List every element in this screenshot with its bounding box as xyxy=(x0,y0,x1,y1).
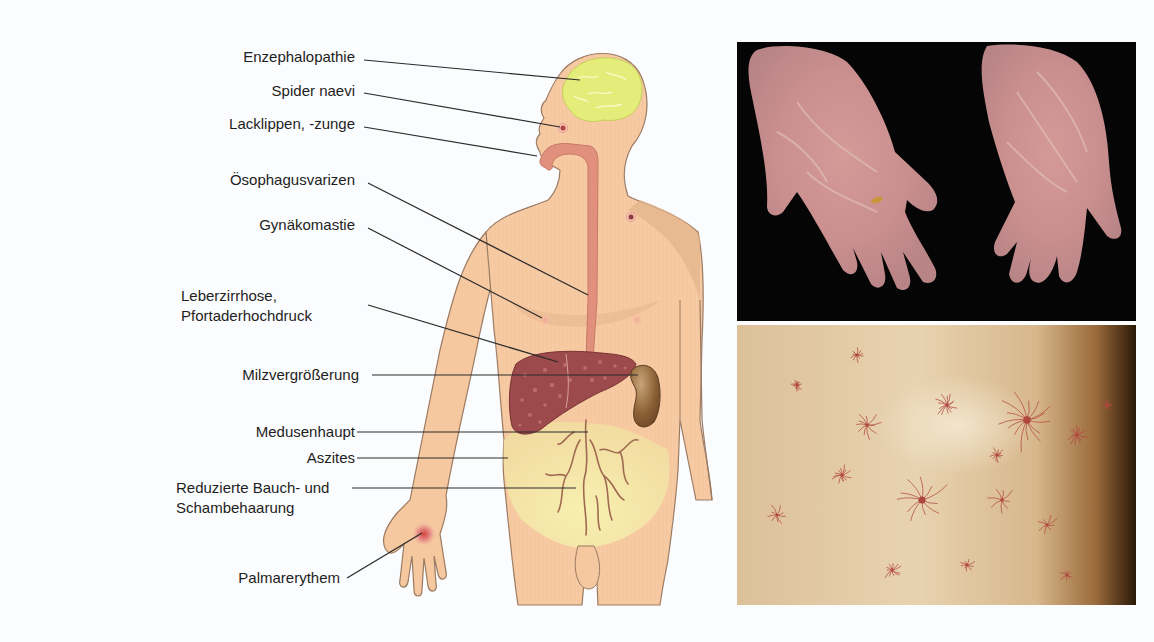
figure: Enzephalopathie Spider naevi Lacklippen,… xyxy=(0,0,1154,642)
label-reduzierte-behaarung-line2: Schambehaarung xyxy=(176,498,329,518)
label-oesophagusvarizen: Ösophagusvarizen xyxy=(230,170,355,190)
palmar-erythema-photo xyxy=(737,42,1136,321)
palmar-erythema-spot xyxy=(411,521,437,547)
leader-line-lacklippen xyxy=(364,127,537,156)
label-reduzierte-behaarung: Reduzierte Bauch- und Schambehaarung xyxy=(176,478,329,518)
left-hand xyxy=(749,46,938,290)
label-enzephalopathie: Enzephalopathie xyxy=(243,47,355,67)
label-leberzirrhose-line1: Leberzirrhose, xyxy=(181,286,312,306)
label-medusenhaupt: Medusenhaupt xyxy=(256,422,355,442)
genitals xyxy=(575,546,599,589)
label-lacklippen: Lacklippen, -zunge xyxy=(229,114,355,134)
leader-line-enzephalopathie xyxy=(364,60,580,80)
right-hand xyxy=(982,45,1122,283)
label-milzvergroesserung: Milzvergrößerung xyxy=(242,365,359,385)
label-aszites: Aszites xyxy=(307,448,355,468)
leader-line-spider-naevi xyxy=(364,93,560,127)
left-arm xyxy=(384,232,494,596)
nipple-right xyxy=(630,313,644,327)
label-leberzirrhose-line2: Pfortaderhochdruck xyxy=(181,306,312,326)
spider-naevi-photo xyxy=(737,325,1136,605)
nipple-left xyxy=(538,313,552,327)
label-reduzierte-behaarung-line1: Reduzierte Bauch- und xyxy=(176,478,329,498)
label-leberzirrhose: Leberzirrhose, Pfortaderhochdruck xyxy=(181,286,312,326)
spider-naevus-chest xyxy=(629,215,634,220)
spider-naevus-face xyxy=(561,126,566,131)
label-palmarerythem: Palmarerythem xyxy=(238,568,340,588)
label-gynaekomastie: Gynäkomastie xyxy=(259,215,355,235)
label-spider-naevi: Spider naevi xyxy=(272,81,355,101)
